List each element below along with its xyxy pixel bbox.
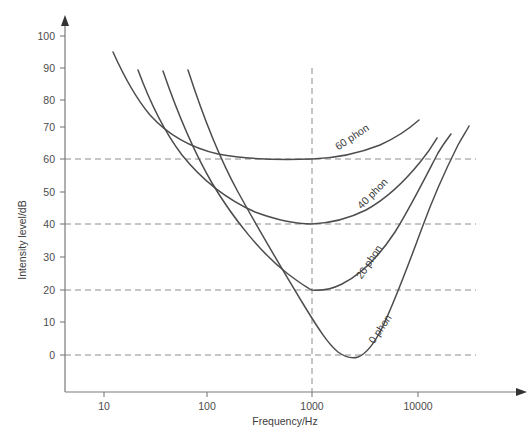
chart-svg: 100 90 80 70 60 50 40 30 20 10 0 10 100 … (0, 0, 531, 430)
y-tick-label-30: 30 (43, 251, 55, 263)
y-tick-label-70: 70 (43, 121, 55, 133)
y-tick-label-90: 90 (43, 62, 55, 74)
y-tick-label-40: 40 (43, 218, 55, 230)
y-tick-label-60: 60 (43, 153, 55, 165)
x-axis-title: Frequency/Hz (252, 415, 317, 427)
y-tick-label-0: 0 (49, 349, 55, 361)
x-tick-label-10000: 10000 (403, 400, 432, 412)
y-tick-label-50: 50 (43, 186, 55, 198)
x-tick-label-1000: 1000 (300, 400, 324, 412)
x-tick-label-100: 100 (198, 400, 216, 412)
y-tick-label-80: 80 (43, 94, 55, 106)
y-axis-title: Intensity level/dB (16, 200, 28, 279)
equal-loudness-chart: 100 90 80 70 60 50 40 30 20 10 0 10 100 … (0, 0, 531, 430)
y-tick-label-20: 20 (43, 284, 55, 296)
y-tick-label-100: 100 (37, 30, 55, 42)
y-tick-label-10: 10 (43, 316, 55, 328)
x-tick-label-10: 10 (98, 400, 110, 412)
